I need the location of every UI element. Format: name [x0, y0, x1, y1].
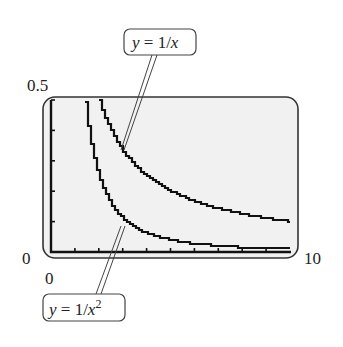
calculator-graph-figure: 0.5 0 0 10 y = 1/x y = 1/x2 — [0, 0, 343, 347]
ymin-label: 0 — [22, 249, 31, 268]
xmin-label: 0 — [45, 269, 54, 288]
callout-text: y = 1/x — [130, 33, 179, 52]
callout-text: y = 1/x2 — [47, 297, 101, 319]
xmax-label: 10 — [304, 249, 321, 268]
calculator-screen — [43, 97, 298, 258]
ymax-label: 0.5 — [27, 76, 48, 95]
